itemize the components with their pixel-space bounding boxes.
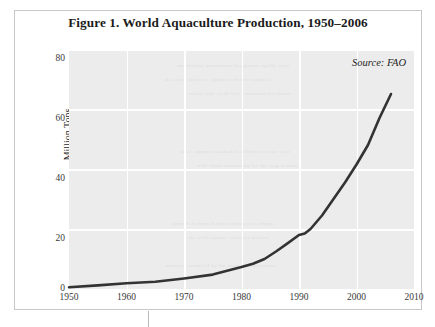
x-axis-tick-1990: 1990 — [276, 292, 322, 302]
series-line-chart — [69, 49, 414, 289]
x-axis-tick-1970: 1970 — [161, 292, 207, 302]
page-column-rule — [148, 311, 149, 327]
source-annotation: Source: FAO — [352, 57, 406, 68]
y-axis-tick-20: 20 — [15, 233, 65, 243]
figure-title: Figure 1. World Aquaculture Production, … — [15, 15, 421, 31]
figure-frame: Figure 1. World Aquaculture Production, … — [14, 10, 422, 310]
x-axis-tick-1950: 1950 — [46, 292, 92, 302]
x-axis-tick-1960: 1960 — [104, 292, 150, 302]
aquaculture-production-line — [69, 94, 391, 287]
x-axis-tick-2010: 2010 — [391, 292, 435, 302]
y-axis-tick-60: 60 — [15, 113, 65, 123]
x-axis-tick-2000: 2000 — [334, 292, 380, 302]
y-axis-tick-80: 80 — [15, 53, 65, 63]
plot-area: aquaculture production has grown rapidly… — [69, 49, 414, 289]
y-axis-tick-40: 40 — [15, 173, 65, 183]
x-axis-tick-1980: 1980 — [219, 292, 265, 302]
